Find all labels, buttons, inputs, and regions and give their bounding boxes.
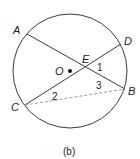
label-d: D: [124, 35, 132, 47]
figure-caption: (b): [63, 146, 75, 157]
circle-chords-diagram: A D B C E O 1 2 3 (b): [0, 0, 140, 159]
label-b: B: [128, 85, 135, 97]
angle-label-2: 2: [52, 91, 58, 102]
center-dot: [68, 69, 72, 73]
chord-ab: [27, 34, 125, 89]
chord-cd: [25, 44, 121, 105]
label-c: C: [11, 101, 19, 113]
angle-label-1: 1: [97, 62, 103, 73]
label-e: E: [82, 53, 90, 65]
label-a: A: [12, 24, 20, 36]
dashed-segment-cb: [25, 89, 125, 105]
label-o: O: [55, 65, 64, 77]
angle-label-3: 3: [96, 80, 102, 91]
